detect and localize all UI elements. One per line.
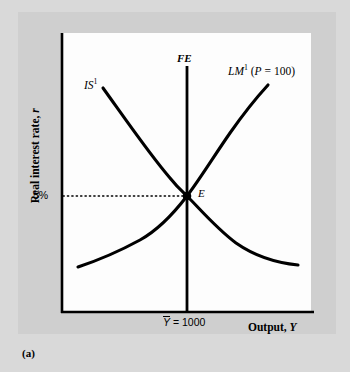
y-axis-title: Real interest rate, r (30, 76, 42, 236)
output-tick-symbol: Y (163, 316, 170, 328)
is-curve-label: IS1 (84, 78, 98, 91)
is-curve-superscript: 1 (94, 77, 98, 86)
figure-panel-a: Real interest rate, r Output, Y IS1 LM1 … (0, 0, 350, 372)
lm-curve (78, 85, 268, 267)
lm-curve-label: LM1 (P = 100) (228, 64, 295, 77)
output-tick-label: Y = 1000 (163, 316, 205, 328)
lm-price-value: 100 (274, 65, 291, 77)
lm-price-symbol: P (255, 65, 262, 77)
interest-rate-tick-label: 5% (33, 190, 48, 201)
output-tick-value: 1000 (182, 316, 205, 328)
y-axis-title-wrapper: Real interest rate, r (0, 0, 60, 320)
lm-curve-label-text: LM (228, 65, 244, 77)
equilibrium-point-label: E (198, 188, 205, 199)
panel-caption: (a) (22, 348, 35, 359)
lm-price-note: (P = 100) (248, 65, 295, 77)
is-curve-label-text: IS (84, 79, 94, 91)
equilibrium-point-marker (183, 192, 192, 201)
fe-line-label: FE (177, 53, 192, 64)
x-axis-title: Output, Y (248, 322, 297, 334)
